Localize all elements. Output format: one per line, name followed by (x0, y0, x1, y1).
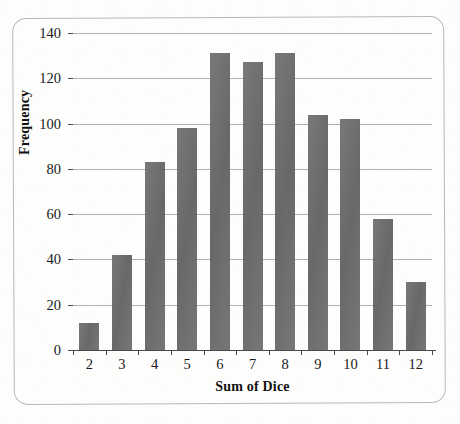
y-axis-tick-label: 0 (21, 343, 61, 358)
bar (275, 53, 295, 350)
bar (406, 282, 426, 350)
x-axis-tick-mark (334, 350, 335, 355)
y-axis-tick-label: 40 (21, 252, 61, 267)
y-axis-tick-label: 80 (21, 162, 61, 177)
x-axis-tick-mark (432, 350, 433, 355)
bar (308, 115, 328, 350)
x-axis-tick-mark (269, 350, 270, 355)
x-axis-tick-mark (236, 350, 237, 355)
bar (79, 323, 99, 350)
chart-screenshot: Frequency 020406080100120140 23456789101… (0, 0, 460, 424)
bar (340, 119, 360, 350)
x-axis-line (68, 350, 436, 351)
bar (373, 219, 393, 350)
y-axis-tick-label: 140 (21, 26, 61, 41)
x-axis-tick-mark (171, 350, 172, 355)
x-axis-tick-mark (367, 350, 368, 355)
y-axis-tick-label: 120 (21, 71, 61, 86)
bar (243, 62, 263, 350)
bar (210, 53, 230, 350)
x-axis-tick-mark (138, 350, 139, 355)
y-axis-tick-label: 20 (21, 298, 61, 313)
x-axis-tick-mark (204, 350, 205, 355)
x-axis-title: Sum of Dice (73, 379, 432, 395)
x-axis-tick-label: 12 (396, 357, 436, 372)
x-axis-tick-mark (399, 350, 400, 355)
bar (145, 162, 165, 350)
y-axis-tick-label: 60 (21, 207, 61, 222)
y-axis-tick-label: 100 (21, 117, 61, 132)
bar (177, 128, 197, 350)
x-axis-tick-mark (106, 350, 107, 355)
x-axis-tick-mark (301, 350, 302, 355)
bar (112, 255, 132, 350)
bars-layer (73, 33, 432, 350)
x-axis-tick-mark (73, 350, 74, 355)
